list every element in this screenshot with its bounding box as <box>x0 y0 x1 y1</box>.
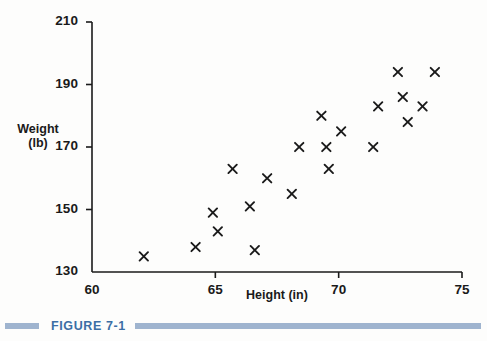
data-point-marker <box>404 118 412 126</box>
figure-caption-label: FIGURE 7-1 <box>51 319 126 333</box>
data-point-marker <box>322 143 330 151</box>
x-axis-ticks <box>215 272 462 278</box>
data-point-marker <box>337 127 345 135</box>
data-point-marker <box>140 252 148 260</box>
data-point-marker <box>228 165 236 173</box>
y-axis-tick-label: 130 <box>44 263 78 278</box>
data-point-marker <box>374 102 382 110</box>
data-point-marker <box>317 112 325 120</box>
data-point-marker <box>399 93 407 101</box>
data-point-marker <box>369 143 377 151</box>
scatter-plot-figure: 130150170190210 60657075 Weight (lb) Hei… <box>0 0 487 305</box>
data-point-marker <box>214 227 222 235</box>
figure-caption-bar: FIGURE 7-1 <box>0 316 487 336</box>
data-point-marker <box>295 143 303 151</box>
data-point-marker <box>325 165 333 173</box>
data-point-marker <box>263 174 271 182</box>
y-axis-tick-label: 150 <box>44 201 78 216</box>
x-axis-title: Height (in) <box>92 288 462 302</box>
y-axis-tick-label: 210 <box>44 13 78 28</box>
y-axis-title: Weight (lb) <box>8 122 68 150</box>
y-axis-title-line-1: Weight <box>17 122 58 136</box>
data-point-marker <box>209 208 217 216</box>
data-point-marker <box>431 68 439 76</box>
caption-rule-right <box>135 323 481 329</box>
data-point-marker <box>288 190 296 198</box>
data-point-marker <box>191 243 199 251</box>
y-axis-title-line-2: (lb) <box>8 136 68 150</box>
figure-page: 130150170190210 60657075 Weight (lb) Hei… <box>0 0 487 341</box>
data-point-marker <box>418 102 426 110</box>
data-point-marker <box>251 246 259 254</box>
y-axis-tick-label: 190 <box>44 76 78 91</box>
caption-rule-left <box>5 323 39 329</box>
data-point-markers <box>140 68 439 261</box>
y-axis-ticks <box>86 22 92 210</box>
data-point-marker <box>394 68 402 76</box>
plot-axes <box>92 22 462 272</box>
data-point-marker <box>246 202 254 210</box>
